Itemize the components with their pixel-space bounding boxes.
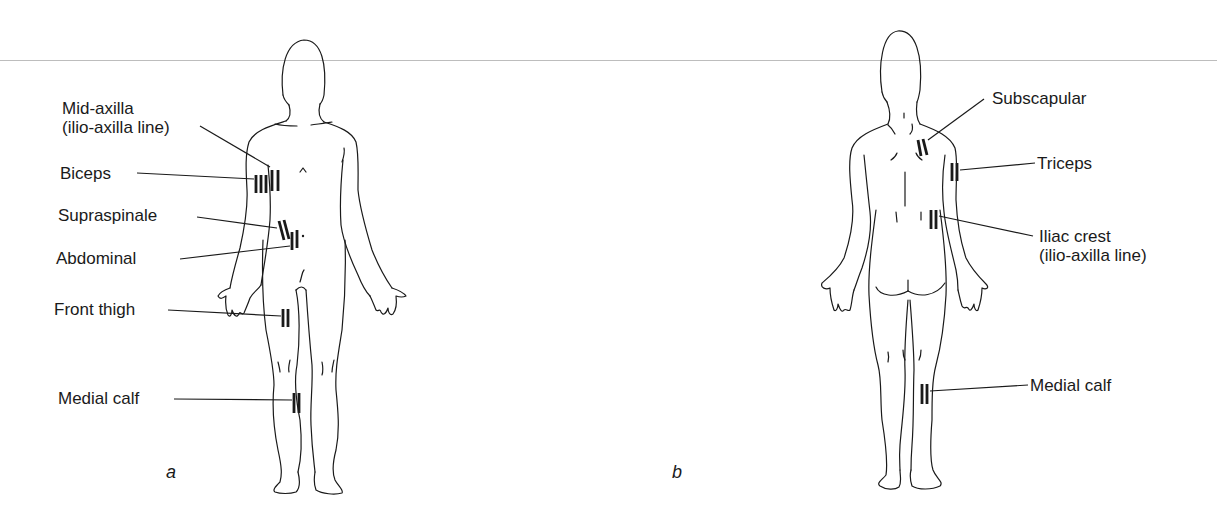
mark-iliac-crest [931, 210, 936, 229]
label-mid-axilla-subtitle: (ilio-axilla line) [62, 118, 170, 137]
leader-iliac-crest [939, 216, 1033, 236]
leader-triceps [960, 163, 1035, 170]
leader-supraspinale [197, 217, 277, 228]
label-abdominal: Abdominal [56, 249, 136, 268]
label-iliac-crest-subtitle: (ilio-axilla line) [1039, 246, 1147, 265]
leader-subscapular [928, 99, 984, 140]
mark-biceps [256, 175, 266, 193]
panel-letter-a: a [166, 462, 176, 483]
mark-mid-axilla [272, 170, 278, 191]
label-triceps: Triceps [1037, 154, 1092, 173]
label-subscapular: Subscapular [992, 89, 1087, 108]
leader-abdominal [180, 246, 290, 259]
label-front-thigh: Front thigh [54, 300, 135, 319]
body-outlines [0, 0, 1217, 514]
leader-back-medial-calf [930, 385, 1028, 391]
label-mid-axilla-name: Mid-axilla [62, 99, 170, 118]
label-iliac-crest: Iliac crest (ilio-axilla line) [1039, 227, 1147, 265]
label-back-medial-calf: Medial calf [1030, 376, 1111, 395]
leader-biceps [137, 173, 254, 179]
mark-front-thigh [283, 309, 288, 327]
mark-triceps [952, 163, 957, 181]
label-mid-axilla: Mid-axilla (ilio-axilla line) [62, 99, 170, 137]
panel-letter-b: b [672, 462, 682, 483]
label-supraspinale: Supraspinale [58, 206, 157, 225]
leader-mid-axilla [200, 126, 270, 167]
back-body-outline [822, 31, 988, 489]
mark-supraspinale [279, 220, 289, 240]
mark-abdominal [292, 230, 297, 250]
front-body-outline [218, 40, 406, 494]
mark-back-medial-calf [922, 384, 927, 404]
label-front-medial-calf: Medial calf [58, 389, 139, 408]
label-biceps: Biceps [60, 164, 111, 183]
label-iliac-crest-name: Iliac crest [1039, 227, 1147, 246]
leader-front-medial-calf [174, 399, 292, 400]
mark-subscapular [918, 139, 927, 156]
